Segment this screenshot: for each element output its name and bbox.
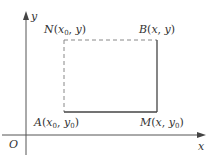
origin-label: O (9, 138, 18, 151)
coordinate-diagram: y x O N(x0, y) B(x, y) A(x0, y0) M(x, y0… (0, 0, 210, 165)
diagram-canvas: y x O N(x0, y) B(x, y) A(x0, y0) M(x, y0… (0, 0, 210, 165)
point-N-label: N(x0, y) (43, 23, 86, 37)
x-axis-label: x (198, 140, 205, 153)
x-axis-arrow-icon (197, 132, 206, 138)
y-axis-label: y (30, 10, 38, 23)
point-A-label: A(x0, y0) (33, 116, 79, 130)
point-M-label: M(x, y0) (139, 116, 184, 130)
y-axis-arrow-icon (23, 11, 29, 20)
point-B-label: B(x, y) (138, 23, 175, 36)
